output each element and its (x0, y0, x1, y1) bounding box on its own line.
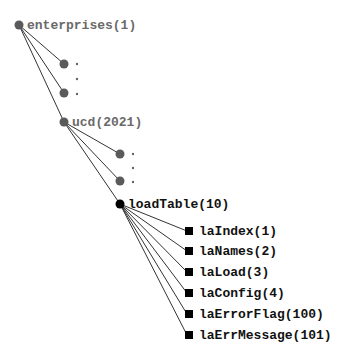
tree-edges (19, 25, 187, 335)
leaf-square-icon (185, 227, 193, 235)
node-ucd-icon (60, 118, 69, 127)
mib-tree-diagram: enterprises(1)ucd(2021)loadTable(10)laIn… (0, 0, 342, 356)
tree-labels: enterprises(1)ucd(2021)loadTable(10)laIn… (27, 18, 332, 343)
enterprises-ellipsis-dot (76, 63, 78, 65)
leaf-square-icon (185, 310, 193, 318)
node-sibling-icon (60, 60, 69, 69)
leaf-square-icon (185, 268, 193, 276)
edge-loadtable-leaf-4 (120, 204, 187, 314)
leaf-square-icon (185, 331, 193, 339)
node-sibling-icon (116, 150, 125, 159)
ucd-ellipsis-dot (132, 167, 134, 169)
node-loadtable-icon (116, 200, 125, 209)
edge-enterprises-ucd (19, 25, 64, 122)
edge-loadtable-leaf-5 (120, 204, 187, 335)
edge-enterprises-sibling-1 (19, 25, 64, 93)
enterprises-ellipsis-dot (76, 93, 78, 95)
edge-loadtable-leaf-2 (120, 204, 187, 272)
leaf-square-icon (185, 247, 193, 255)
label-loadtable: loadTable(10) (128, 197, 229, 212)
ucd-ellipsis-dot (132, 153, 134, 155)
leaf-square-icon (185, 289, 193, 297)
label-ucd: ucd(2021) (72, 115, 142, 130)
label-leaf: laConfig(4) (199, 286, 285, 301)
label-leaf: laIndex(1) (199, 224, 277, 239)
node-enterprises-icon (15, 21, 24, 30)
label-leaf: laNames(2) (199, 244, 277, 259)
label-leaf: laLoad(3) (199, 265, 269, 280)
enterprises-ellipsis-dot (76, 78, 78, 80)
label-leaf: laErrorFlag(100) (199, 307, 324, 322)
label-leaf: laErrMessage(101) (199, 328, 332, 343)
edge-ucd-sibling-1 (64, 122, 120, 181)
node-sibling-icon (116, 177, 125, 186)
ucd-ellipsis-dot (132, 181, 134, 183)
node-sibling-icon (60, 89, 69, 98)
label-enterprises: enterprises(1) (27, 18, 136, 33)
edge-ucd-loadtable (64, 122, 120, 204)
